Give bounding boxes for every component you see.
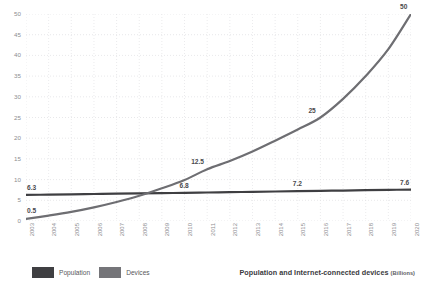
y-axis-tick-label: 0 [17, 218, 21, 224]
chart-title: Population and Internet-connected device… [239, 268, 415, 277]
y-axis-tick-label: 40 [14, 52, 21, 58]
y-axis-tick-label: 35 [14, 73, 21, 79]
data-point-label: 6.3 [27, 185, 36, 192]
y-axis-tick-label: 30 [14, 94, 21, 100]
y-axis-tick-label: 25 [14, 114, 21, 120]
x-axis-tick-label: 2011 [210, 223, 216, 236]
data-point-label: 0.5 [27, 208, 36, 215]
data-point-label: 50 [400, 4, 407, 11]
plot-svg [26, 14, 411, 221]
series-line-population [26, 190, 411, 195]
x-axis-tick-label: 2009 [164, 223, 170, 236]
x-axis-tick-label: 2004 [51, 223, 57, 236]
x-axis-tick-label: 2020 [414, 223, 420, 236]
data-point-label: 7.2 [293, 181, 302, 188]
series-line-devices [26, 14, 411, 219]
x-axis-tick-label: 2016 [323, 223, 329, 236]
x-axis-tick-label: 2015 [300, 223, 306, 236]
chart-title-unit: (Billions) [391, 270, 415, 276]
chart-container: 05101520253035404550 2003200420052006200… [0, 0, 423, 284]
x-axis-tick-label: 2017 [346, 223, 352, 236]
x-axis-tick-label: 2013 [255, 223, 261, 236]
data-point-label: 25 [308, 108, 315, 115]
data-point-label: 6.8 [180, 183, 189, 190]
legend-swatch-devices [99, 267, 121, 278]
y-axis-tick-label: 10 [14, 176, 21, 182]
x-axis: 2003200420052006200720082009201020112012… [26, 223, 411, 259]
y-axis-tick-label: 15 [14, 156, 21, 162]
legend-item-population[interactable]: Population [32, 267, 90, 278]
x-axis-tick-label: 2018 [368, 223, 374, 236]
x-axis-tick-label: 2014 [278, 223, 284, 236]
legend-label-population: Population [59, 269, 90, 276]
legend-label-devices: Devices [126, 269, 149, 276]
y-axis: 05101520253035404550 [0, 14, 24, 221]
y-axis-tick-label: 45 [14, 32, 21, 38]
x-axis-tick-label: 2003 [29, 223, 35, 236]
y-axis-tick-label: 20 [14, 135, 21, 141]
y-axis-tick-label: 5 [17, 197, 21, 203]
x-axis-tick-label: 2007 [119, 223, 125, 236]
x-axis-tick-label: 2008 [142, 223, 148, 236]
x-axis-tick-label: 2010 [187, 223, 193, 236]
chart-legend: Population Devices [32, 267, 150, 278]
x-axis-tick-label: 2005 [74, 223, 80, 236]
y-axis-tick-label: 50 [14, 11, 21, 17]
plot-area [26, 14, 411, 221]
chart-title-text: Population and Internet-connected device… [239, 268, 388, 277]
legend-item-devices[interactable]: Devices [99, 267, 149, 278]
x-axis-tick-label: 2012 [232, 223, 238, 236]
data-point-label: 12.5 [191, 159, 204, 166]
data-point-label: 7.6 [400, 180, 409, 187]
legend-swatch-population [32, 267, 54, 278]
x-axis-tick-label: 2019 [391, 223, 397, 236]
x-axis-tick-label: 2006 [97, 223, 103, 236]
